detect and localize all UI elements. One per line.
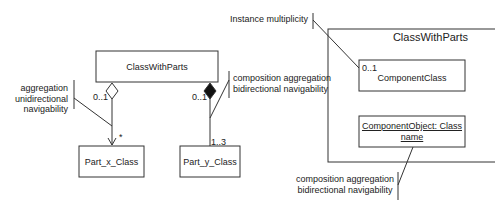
part-y-part-multiplicity: 1..3 (211, 137, 226, 148)
component-object-label-line1: ComponentObject: Class (359, 121, 465, 132)
class-with-parts-label: ClassWithParts (96, 62, 218, 73)
component-class-label: ComponentClass (359, 73, 465, 84)
composition-note-right: composition aggregation bidirectional na… (296, 174, 394, 195)
instance-multiplicity-note: Instance multiplicity (200, 14, 308, 25)
part-x-class-label: Part_x_Class (79, 157, 144, 168)
aggregation-note-line2: unidirectional (0, 94, 68, 105)
composition-note-left-line2: bidirectional navigability (233, 84, 331, 95)
aggregation-note-line1: aggregation (0, 83, 68, 94)
composition-note-right-line2: bidirectional navigability (296, 185, 394, 196)
part-y-class-label: Part_y_Class (180, 157, 240, 168)
component-object-label-line2: name (359, 132, 465, 143)
part-x-whole-multiplicity: 0..1 (93, 92, 108, 103)
part-x-part-multiplicity: * (119, 132, 123, 143)
composition-note-left: composition aggregation bidirectional na… (233, 73, 331, 94)
aggregation-note-line3: navigability (0, 104, 68, 115)
container-title: ClassWithParts (328, 32, 495, 43)
aggregation-note: aggregation unidirectional navigability (0, 83, 68, 115)
composition-note-right-line1: composition aggregation (296, 174, 394, 185)
component-class-multiplicity: 0..1 (362, 63, 377, 74)
part-y-whole-multiplicity: 0..1 (192, 92, 207, 103)
composition-note-left-line1: composition aggregation (233, 73, 331, 84)
